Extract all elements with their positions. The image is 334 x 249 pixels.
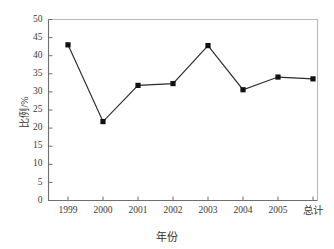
y-tick-label: 5 <box>38 177 43 187</box>
y-tick-label: 25 <box>33 104 43 114</box>
x-tick-label: 总计 <box>303 204 324 216</box>
x-axis-title: 年份 <box>156 230 178 243</box>
y-axis-title: 比例/% <box>18 96 30 127</box>
data-point-2002 <box>170 81 175 86</box>
y-axis-tick-labels: 05101520253035404550 <box>33 14 43 205</box>
y-tick-label: 20 <box>33 122 43 132</box>
x-tick-label: 1999 <box>59 205 78 215</box>
y-axis-ticks <box>49 20 53 201</box>
y-tick-label: 40 <box>33 50 43 60</box>
y-tick-label: 45 <box>33 32 43 42</box>
data-point-1999 <box>65 42 70 47</box>
data-point-2003 <box>205 43 210 48</box>
y-tick-label: 10 <box>33 158 43 168</box>
axis-lines <box>49 20 318 201</box>
frame-border <box>49 20 318 201</box>
x-tick-label: 2004 <box>234 205 253 215</box>
x-tick-label: 2002 <box>164 205 183 215</box>
y-tick-label: 30 <box>33 86 43 96</box>
data-point-总计 <box>310 76 315 81</box>
chart-canvas: 05101520253035404550 1999200020012002200… <box>0 0 334 249</box>
x-tick-label: 2001 <box>129 205 148 215</box>
data-series <box>65 42 315 124</box>
series-line <box>68 45 313 122</box>
x-tick-label: 2000 <box>94 205 113 215</box>
data-point-2005 <box>275 74 280 79</box>
x-axis-tick-labels: 1999200020012002200320042005总计 <box>59 204 325 216</box>
data-point-2001 <box>135 83 140 88</box>
x-tick-label: 2005 <box>269 205 288 215</box>
x-axis-ticks <box>68 197 313 201</box>
series-markers <box>65 42 315 124</box>
plot-frame <box>49 20 318 201</box>
y-tick-label: 0 <box>38 195 43 205</box>
data-point-2004 <box>240 87 245 92</box>
data-point-2000 <box>100 119 105 124</box>
y-tick-label: 50 <box>33 14 43 24</box>
x-tick-label: 2003 <box>199 205 218 215</box>
line-chart: 05101520253035404550 1999200020012002200… <box>0 0 334 249</box>
y-tick-label: 15 <box>33 140 43 150</box>
y-tick-label: 35 <box>33 68 43 78</box>
